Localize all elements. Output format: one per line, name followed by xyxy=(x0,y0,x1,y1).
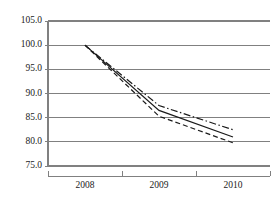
series-line-upper xyxy=(85,45,233,130)
y-tick-label: 100.0 xyxy=(21,39,42,49)
y-tick-label: 90.0 xyxy=(25,88,42,98)
y-tick-label: 85.0 xyxy=(25,112,42,122)
xtick-group xyxy=(48,171,270,176)
series-line-middle xyxy=(85,45,233,137)
chart-canvas xyxy=(0,0,279,200)
x-tick-label: 2009 xyxy=(129,180,189,190)
y-tick-label: 95.0 xyxy=(25,63,42,73)
x-tick-label: 2010 xyxy=(203,180,263,190)
gridline-group xyxy=(48,21,270,166)
x-tick-label: 2008 xyxy=(55,180,115,190)
axis-group xyxy=(45,21,49,166)
y-tick-label: 75.0 xyxy=(25,160,42,170)
y-tick-label: 105.0 xyxy=(21,15,42,25)
line-chart: 105.0100.095.090.085.080.075.0 200820092… xyxy=(0,0,279,200)
y-tick-label: 80.0 xyxy=(25,136,42,146)
